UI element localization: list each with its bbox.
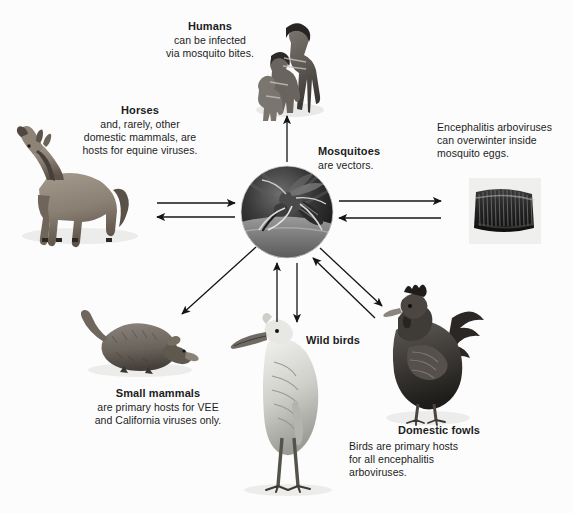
humans-title: Humans <box>148 20 272 33</box>
encephalitis-line-1: Encephalitis arboviruses <box>437 121 571 134</box>
caption-humans: Humans can be infected via mosquito bite… <box>148 20 272 60</box>
small-mammals-line-1: are primary hosts for VEE <box>83 401 233 414</box>
caption-wild-birds: Wild birds <box>306 334 386 348</box>
caption-small-mammals: Small mammals are primary hosts for VEE … <box>83 387 233 427</box>
humans-line-1: can be infected <box>148 34 272 47</box>
caption-horses: Horses and, rarely, other domestic mamma… <box>70 104 210 157</box>
humans-line-2: via mosquito bites. <box>148 47 272 60</box>
horses-line-1: and, rarely, other <box>70 118 210 131</box>
encephalitis-line-3: mosquito eggs. <box>437 147 571 160</box>
encephalitis-line-2: can overwinter inside <box>437 134 571 147</box>
caption-domestic-fowls-title: Domestic fowls <box>379 424 499 438</box>
arbovirus-transmission-diagram: Humans can be infected via mosquito bite… <box>0 0 573 513</box>
wild-birds-title: Wild birds <box>306 334 386 347</box>
domestic-fowls-line-1: Birds are primary hosts <box>349 440 499 453</box>
domestic-fowls-line-3: arboviruses. <box>349 466 499 479</box>
caption-encephalitis-arboviruses: Encephalitis arboviruses can overwinter … <box>437 121 571 160</box>
domestic-fowls-line-2: for all encephalitis <box>349 453 499 466</box>
caption-mosquitoes: Mosquitoes are vectors. <box>318 145 424 172</box>
small-mammals-line-2: and California viruses only. <box>83 414 233 427</box>
mosquitoes-line-1: are vectors. <box>318 159 424 172</box>
domestic-fowls-title: Domestic fowls <box>379 424 499 437</box>
mosquitoes-title: Mosquitoes <box>318 145 424 158</box>
mosquito-eggs-photo <box>469 178 541 244</box>
horses-line-2: domestic mammals, are <box>70 131 210 144</box>
caption-domestic-fowls-body: Birds are primary hosts for all encephal… <box>349 440 499 479</box>
horses-title: Horses <box>70 104 210 117</box>
horses-line-3: hosts for equine viruses. <box>70 144 210 157</box>
small-mammals-title: Small mammals <box>83 387 233 400</box>
